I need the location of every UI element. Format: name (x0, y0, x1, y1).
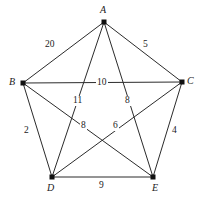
graph-figure: ABCDE 2051011828649 (0, 0, 202, 203)
graph-vertex-c (180, 80, 185, 85)
graph-vertex-a (102, 20, 107, 25)
edge-weight-cd: 6 (112, 121, 119, 131)
graph-vertex-b (21, 81, 26, 86)
edge-weight-bd: 2 (23, 126, 30, 136)
edge-weight-ce: 4 (171, 126, 178, 136)
graph-edge-be (23, 83, 153, 177)
vertex-label-d: D (47, 183, 54, 193)
edge-weight-ae: 8 (124, 96, 131, 106)
vertex-label-a: A (100, 5, 106, 15)
graph-vertex-e (151, 175, 156, 180)
vertex-label-e: E (152, 183, 158, 193)
vertex-label-b: B (9, 77, 15, 87)
graph-vertex-d (50, 175, 55, 180)
edge-weight-be: 8 (80, 121, 87, 131)
edge-weight-ab: 20 (44, 40, 56, 50)
edge-weight-ad: 11 (72, 96, 83, 106)
graph-edge-ab (23, 22, 104, 83)
vertex-label-c: C (187, 76, 194, 86)
graph-canvas (0, 0, 202, 203)
graph-edge-ac (104, 22, 182, 82)
edge-weight-bc: 10 (96, 78, 108, 88)
edge-weight-de: 9 (98, 181, 105, 191)
edge-weight-ac: 5 (142, 40, 149, 50)
